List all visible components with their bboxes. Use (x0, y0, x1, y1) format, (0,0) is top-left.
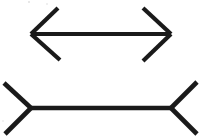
arrows-in-right-upper-fin (143, 8, 171, 34)
figure-arrows-in (31, 8, 171, 61)
arrows-in-left-lower-fin (31, 34, 60, 60)
fins-out-left-upper-fin (4, 83, 31, 108)
arrows-in-left-upper-fin (31, 8, 58, 34)
arrows-in-right-lower-fin (143, 34, 171, 61)
fins-out-right-upper-fin (171, 82, 197, 108)
fins-out-right-lower-fin (171, 108, 197, 134)
figure-fins-out (4, 82, 197, 134)
illusion-canvas: Muller-Lyer Illusion (0, 0, 201, 140)
illusion-svg (0, 0, 201, 140)
fins-out-left-lower-fin (5, 108, 31, 134)
